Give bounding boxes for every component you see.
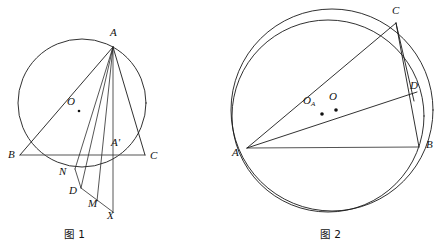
fig1-label-A-prime: A'	[111, 137, 120, 148]
figure-1-caption: 图 1	[64, 226, 86, 241]
fig2-segment-AB	[247, 147, 419, 148]
fig2-label-O: O	[329, 91, 337, 102]
fig1-label-D: D	[69, 185, 77, 196]
fig1-segment-AM	[97, 47, 113, 201]
fig1-label-N: N	[59, 166, 66, 177]
fig2-segment-AC	[247, 23, 396, 148]
fig2-center-O-dot	[334, 108, 338, 112]
figure-board: A B C O A' N D M X A B C D OA O 图 1 图 2	[0, 0, 444, 246]
fig2-label-D: D	[410, 80, 418, 91]
fig1-label-A: A	[110, 27, 117, 38]
fig2-label-A: A	[232, 147, 239, 158]
fig1-label-C: C	[150, 150, 157, 161]
fig2-center-OA-dot	[320, 112, 324, 116]
fig1-label-M: M	[88, 198, 97, 209]
fig2-label-B: B	[426, 139, 433, 150]
fig1-label-X: X	[107, 210, 114, 221]
fig2-second-circle	[232, 20, 424, 212]
fig1-center-O-dot	[78, 110, 81, 113]
figure-1-drawing	[0, 0, 444, 246]
fig1-segment-AD	[81, 47, 113, 188]
fig1-label-O: O	[67, 96, 75, 107]
fig1-label-B: B	[8, 149, 15, 160]
fig1-segment-AN	[75, 47, 113, 169]
fig2-label-OA-base: O	[303, 94, 311, 106]
fig2-circumcircle	[231, 9, 433, 211]
fig2-label-OA-subscript: A	[311, 100, 315, 108]
figure-2-caption: 图 2	[320, 226, 342, 241]
fig2-label-OA: OA	[303, 95, 315, 108]
fig2-label-C: C	[392, 5, 399, 16]
